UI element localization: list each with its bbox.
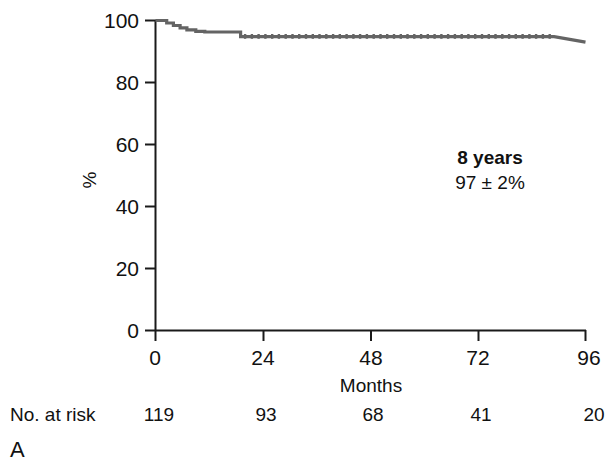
x-axis-ticks [156, 330, 586, 341]
y-axis-tick-labels: 100 80 60 40 20 0 [104, 9, 139, 342]
y-tick-label-20: 20 [116, 257, 139, 280]
y-axis-ticks [145, 21, 156, 331]
numbers-at-risk-value-48: 68 [362, 404, 383, 426]
kaplan-meier-chart: 100 80 60 40 20 0 % 0 24 48 72 96 Months [0, 0, 603, 400]
annotation-title: 8 years [457, 147, 523, 168]
x-tick-label-0: 0 [149, 346, 161, 369]
x-tick-label-96: 96 [577, 346, 600, 369]
x-axis-title: Months [340, 375, 402, 396]
y-tick-label-80: 80 [116, 71, 139, 94]
y-axis-title: % [79, 171, 100, 188]
survival-curve-line [156, 21, 586, 43]
numbers-at-risk-value-96: 20 [583, 404, 604, 426]
annotation-value: 97 ± 2% [455, 172, 525, 193]
y-tick-label-60: 60 [116, 133, 139, 156]
numbers-at-risk-value-24: 93 [255, 404, 276, 426]
y-tick-label-0: 0 [127, 319, 139, 342]
x-tick-label-24: 24 [251, 346, 275, 369]
x-tick-label-72: 72 [466, 346, 489, 369]
y-tick-label-100: 100 [104, 9, 139, 32]
numbers-at-risk-row: No. at risk 119 93 68 41 20 [0, 404, 603, 438]
x-axis-tick-labels: 0 24 48 72 96 [149, 346, 601, 369]
x-tick-label-48: 48 [359, 346, 382, 369]
numbers-at-risk-value-72: 41 [470, 404, 491, 426]
numbers-at-risk-value-0: 119 [144, 404, 174, 426]
numbers-at-risk-label: No. at risk [10, 404, 96, 426]
y-tick-label-40: 40 [116, 195, 139, 218]
panel-letter: A [10, 437, 25, 463]
